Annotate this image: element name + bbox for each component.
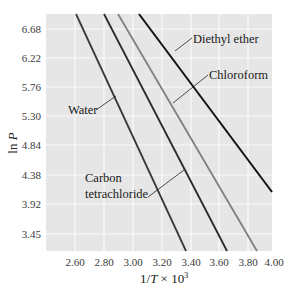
y-tick: 6.68 <box>22 23 42 35</box>
y-tick: 4.38 <box>22 169 42 181</box>
y-tick: 3.45 <box>22 228 42 240</box>
y-tick: 6.22 <box>22 52 41 64</box>
x-tick: 3.60 <box>209 256 229 268</box>
y-tick: 4.84 <box>22 139 42 151</box>
label-chloroform: Chloroform <box>209 68 268 82</box>
x-axis-ticks: 2.60 2.80 3.00 3.20 3.40 3.60 3.80 4.00 <box>65 256 284 268</box>
label-carbon-line1: Carbon <box>85 171 123 185</box>
y-tick: 5.30 <box>22 110 42 122</box>
x-tick: 3.00 <box>123 256 143 268</box>
plot-area <box>46 14 272 251</box>
y-tick: 5.76 <box>22 81 42 93</box>
x-tick: 2.60 <box>65 256 85 268</box>
y-axis-ticks: 6.68 6.22 5.76 5.30 4.84 4.38 3.92 3.45 <box>22 23 42 240</box>
x-tick: 3.40 <box>181 256 201 268</box>
x-tick: 3.20 <box>152 256 172 268</box>
label-diethyl-ether: Diethyl ether <box>193 32 259 46</box>
x-tick: 4.00 <box>264 256 284 268</box>
label-carbon-line2: tetrachloride <box>85 187 149 201</box>
x-tick: 2.80 <box>94 256 114 268</box>
y-tick: 3.92 <box>22 198 41 210</box>
x-axis-label: 1/T × 103 <box>140 271 188 286</box>
chart-figure: Water Carbon tetrachloride Chloroform Di… <box>0 0 290 286</box>
x-tick: 3.80 <box>238 256 258 268</box>
label-water: Water <box>68 103 98 117</box>
y-axis-label: ln P <box>5 132 20 153</box>
